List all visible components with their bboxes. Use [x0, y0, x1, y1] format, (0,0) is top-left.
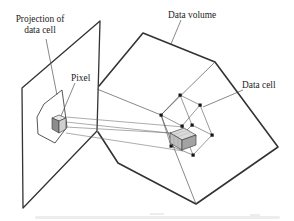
scan-noise-speck-1	[150, 213, 164, 215]
cell-corner-dot-4	[181, 125, 184, 128]
pixel-cube	[52, 115, 66, 133]
cell-corner-dot-7	[170, 145, 173, 148]
cell-corner-dot-2	[199, 104, 202, 107]
data-volume-label: Data volume	[168, 10, 216, 20]
image-plane-face	[22, 21, 100, 208]
projection-label-line2: data cell	[24, 25, 56, 35]
scan-noise-bar	[35, 216, 280, 219]
diagram-canvas: Projection of data cell Pixel Data volum…	[0, 0, 294, 221]
data-volume	[97, 33, 278, 204]
data-cell-label: Data cell	[242, 80, 276, 90]
volume-front-top-left-edge	[97, 89, 161, 115]
cell-corner-dot-3	[160, 114, 163, 117]
cell-corner-dot-6	[211, 134, 214, 137]
figure-volume-raycasting: Projection of data cell Pixel Data volum…	[0, 0, 294, 221]
cell-corner-dot-5	[191, 124, 194, 127]
cell-vertical-edge-2	[200, 105, 212, 135]
scan-noise-speck-2	[250, 214, 260, 216]
cell-vertical-edge-1	[180, 95, 192, 125]
volume-front-top-right-edge	[161, 62, 215, 115]
projection-label-line1: Projection of	[16, 14, 66, 24]
cell-corner-dot-8	[192, 154, 195, 157]
cell-corner-dot-1	[179, 94, 182, 97]
pixel-label: Pixel	[71, 73, 91, 83]
image-plane	[22, 21, 100, 208]
shaded-sub-cell	[170, 128, 196, 150]
volume-front-vertical-edge	[161, 115, 196, 204]
cell-top-face-edges	[161, 95, 200, 126]
volume-silhouette	[98, 33, 278, 204]
data-volume-label-leader	[171, 20, 181, 44]
scan-noise-strip	[35, 213, 280, 219]
